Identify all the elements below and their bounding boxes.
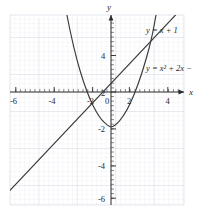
grid-major xyxy=(10,18,184,205)
ytick-label-4: 4 xyxy=(101,52,105,61)
parabola-equation-label: y = x² + 2x − xyxy=(146,64,192,73)
y-axis-label: y xyxy=(107,3,111,12)
ytick-label-2: 2 xyxy=(101,88,105,97)
x-axis-label: x xyxy=(189,88,193,97)
xtick-label-2: 2 xyxy=(127,97,131,106)
ytick-label-minus2: -2 xyxy=(98,125,105,134)
xtick-label-minus4: -4 xyxy=(49,97,56,106)
ytick-label-minus4: -4 xyxy=(98,162,105,171)
graph-figure: -6 -4 -2 0 2 4 4 2 -2 -4 -6 x y y = x + … xyxy=(0,0,200,217)
xtick-label-minus6: -6 xyxy=(10,97,17,106)
line-equation-label: y = x + 1 xyxy=(146,26,178,35)
xtick-label-zero: 0 xyxy=(105,97,109,106)
xtick-label-4: 4 xyxy=(166,97,170,106)
parabola-equation-text: y = x² + 2x − xyxy=(146,63,192,73)
xtick-label-minus2: -2 xyxy=(87,97,94,106)
ytick-label-minus6: -6 xyxy=(98,195,105,204)
